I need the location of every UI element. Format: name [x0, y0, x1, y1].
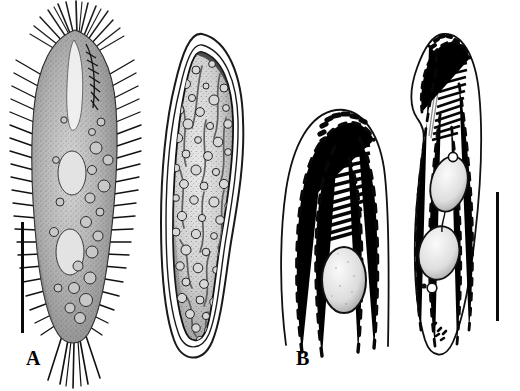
panel-d: D	[395, 0, 520, 391]
panel-c: C	[262, 0, 402, 391]
panel-c-illustration	[262, 0, 402, 391]
panel-b-illustration	[140, 0, 270, 391]
panel-d-illustration	[395, 0, 520, 391]
scale-bar-a	[21, 222, 24, 333]
macronucleus-c	[322, 247, 366, 313]
panel-b: B	[140, 0, 270, 391]
ciliary-rows-c	[297, 114, 378, 356]
scale-bar-d	[496, 192, 499, 321]
panel-label-a: A	[26, 348, 40, 368]
figure-plate: A	[0, 0, 520, 391]
